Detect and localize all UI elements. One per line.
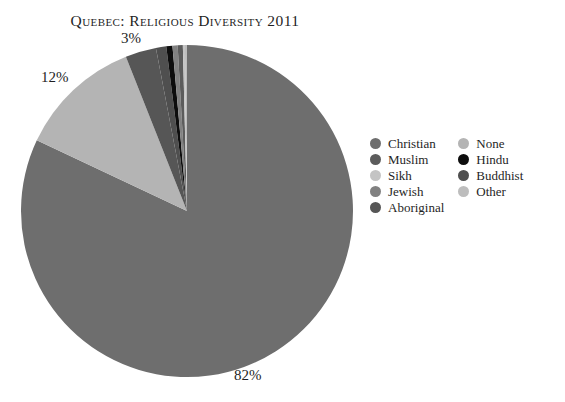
legend-item-label: Aboriginal (388, 201, 444, 214)
chart-figure: Quebec: Religious Diversity 2011 3% 12% … (0, 0, 565, 402)
legend-item[interactable]: Buddhist (458, 168, 523, 183)
chart-legend: ChristianMuslimSikhJewishAboriginal None… (370, 136, 555, 215)
legend-dot-hindu (458, 154, 469, 165)
legend-item[interactable]: Other (458, 184, 523, 199)
legend-item-label: Buddhist (476, 169, 523, 182)
chart-title: Quebec: Religious Diversity 2011 (0, 12, 370, 30)
legend-dot-buddhist (458, 170, 469, 181)
legend-item-label: Hindu (476, 153, 509, 166)
legend-item-label: Muslim (388, 153, 428, 166)
pie-value-label-12: 12% (41, 69, 69, 86)
legend-item-label: None (476, 137, 504, 150)
legend-item-label: Other (476, 185, 506, 198)
pie-value-label-3: 3% (121, 30, 141, 47)
pie-chart-svg (20, 44, 354, 378)
legend-dot-sikh (370, 170, 381, 181)
legend-column-right: NoneHinduBuddhistOther (458, 136, 523, 215)
pie-chart (20, 44, 354, 378)
legend-item[interactable]: None (458, 136, 523, 151)
legend-dot-muslim (370, 154, 381, 165)
legend-item[interactable]: Jewish (370, 184, 444, 199)
legend-dot-none (458, 138, 469, 149)
legend-item[interactable]: Christian (370, 136, 444, 151)
legend-item[interactable]: Sikh (370, 168, 444, 183)
legend-dot-other (458, 186, 469, 197)
legend-dot-jewish (370, 186, 381, 197)
pie-slice-group (21, 45, 353, 377)
legend-item-label: Jewish (388, 185, 423, 198)
legend-item[interactable]: Aboriginal (370, 200, 444, 215)
legend-item-label: Christian (388, 137, 436, 150)
legend-dot-aboriginal (370, 202, 381, 213)
legend-dot-christian (370, 138, 381, 149)
pie-value-label-82: 82% (234, 367, 262, 384)
legend-item[interactable]: Hindu (458, 152, 523, 167)
legend-item-label: Sikh (388, 169, 412, 182)
legend-column-left: ChristianMuslimSikhJewishAboriginal (370, 136, 444, 215)
legend-item[interactable]: Muslim (370, 152, 444, 167)
